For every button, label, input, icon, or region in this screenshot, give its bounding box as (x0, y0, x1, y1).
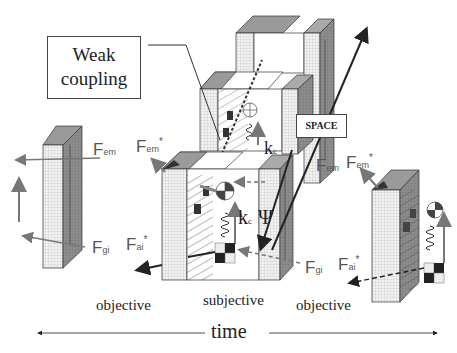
label-left-f-gi: Fgi (92, 238, 109, 258)
label-right-f-em-star: Fem* (346, 152, 373, 173)
label-right-f-gi: Fgi (305, 258, 322, 278)
weak-coupling-callout: Weak coupling (47, 36, 141, 99)
label-sub: c (248, 216, 252, 226)
label-left-f-em: Fem (93, 140, 116, 160)
weak-coupling-line2: coupling (48, 67, 140, 91)
label-text: F (92, 238, 102, 257)
space-callout: SPACE (296, 114, 347, 138)
label-sup: * (143, 234, 147, 245)
weak-coupling-line1: Weak (48, 43, 140, 67)
label-sup: * (159, 136, 163, 147)
region-label-left: objective (96, 297, 151, 314)
label-right-f-ai-star: Fai* (338, 254, 359, 275)
label-center-f-ai-star: Fai* (126, 234, 147, 255)
label-sup: * (369, 152, 373, 163)
left-objective-panel (17, 126, 100, 268)
label-right-f-em: Fem (316, 156, 339, 176)
label-sub: c (273, 146, 277, 156)
label-text: F (93, 140, 103, 159)
label-text: k (238, 206, 248, 228)
label-text: F (126, 235, 136, 254)
label-sub: gi (102, 245, 109, 255)
label-sub: gi (315, 265, 322, 275)
label-sub: em (146, 144, 159, 154)
label-sub: em (103, 147, 116, 157)
label-kc-upper: kc (264, 138, 277, 159)
right-objective-panel (350, 170, 444, 302)
central-subjective-cube (162, 152, 300, 280)
label-text: F (316, 156, 326, 175)
label-psi: Ψ (258, 206, 273, 229)
label-sub: em (356, 160, 369, 170)
label-kc-main: kc (238, 206, 252, 229)
region-label-center: subjective (203, 292, 264, 309)
label-sup: * (355, 254, 359, 265)
label-text: k (264, 138, 273, 158)
label-sub: em (326, 163, 339, 173)
label-text: F (346, 153, 356, 172)
label-center-f-em-star: Fem* (136, 136, 163, 157)
region-label-right: objective (296, 297, 351, 314)
label-text: F (338, 255, 348, 274)
time-axis-label: time (211, 320, 247, 343)
label-text: F (305, 258, 315, 277)
label-text: F (136, 137, 146, 156)
